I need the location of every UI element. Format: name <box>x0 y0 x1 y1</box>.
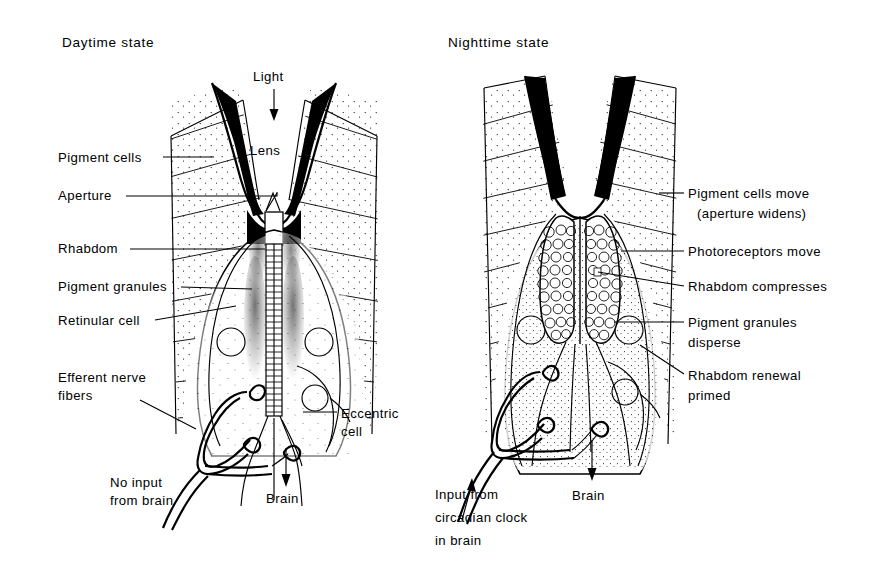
input-from-line3: in brain <box>435 533 481 548</box>
label-eccentric-cell-1: Eccentric <box>341 406 399 421</box>
daytime-rhabdom <box>266 244 282 416</box>
lens-label: Lens <box>250 143 280 158</box>
label-rhabdom-compresses: Rhabdom compresses <box>688 279 827 294</box>
no-input-line2: from brain <box>110 493 173 508</box>
nighttime-bottom-note: Input from circadian clock in brain <box>435 487 528 548</box>
nighttime-title: Nighttime state <box>448 35 549 50</box>
label-rhabdom: Rhabdom <box>58 241 118 256</box>
panel-daytime: Daytime state Light Lens <box>58 35 399 530</box>
label-photoreceptors-move: Photoreceptors move <box>688 244 821 259</box>
figure-root: Daytime state Light Lens <box>0 0 887 565</box>
diagram-canvas: Daytime state Light Lens <box>0 0 887 565</box>
label-pigment-cells-move-2: (aperture widens) <box>697 206 806 221</box>
label-efferent-nerve-fibers-1: Efferent nerve <box>58 370 146 385</box>
label-eccentric-cell-2: cell <box>341 424 362 439</box>
label-pigment-granules-disperse-1: Pigment granules <box>688 315 797 330</box>
daytime-bottom-note: No input from brain <box>110 475 173 508</box>
label-pigment-granules: Pigment granules <box>58 279 167 294</box>
daytime-title: Daytime state <box>62 35 154 50</box>
nighttime-rhabdom <box>538 216 622 344</box>
label-pigment-cells-move-1: Pigment cells move <box>688 186 810 201</box>
light-label: Light <box>253 69 284 84</box>
label-rhabdom-renewal-primed-1: Rhabdom renewal <box>688 368 801 383</box>
label-pigment-cells: Pigment cells <box>58 150 142 165</box>
nighttime-brain-label: Brain <box>572 488 605 503</box>
panel-nighttime: Nighttime state <box>435 35 827 548</box>
label-efferent-nerve-fibers-2: fibers <box>58 388 93 403</box>
label-rhabdom-renewal-primed-2: primed <box>688 388 731 403</box>
label-retinular-cell: Retinular cell <box>58 313 140 328</box>
label-pigment-granules-disperse-2: disperse <box>688 335 741 350</box>
no-input-line1: No input <box>110 475 162 490</box>
light-arrow-icon <box>270 89 279 121</box>
input-from-line2: circadian clock <box>435 510 528 525</box>
input-from-line1: Input from <box>435 487 498 502</box>
daytime-brain-label: Brain <box>266 491 299 506</box>
label-aperture: Aperture <box>58 188 112 203</box>
